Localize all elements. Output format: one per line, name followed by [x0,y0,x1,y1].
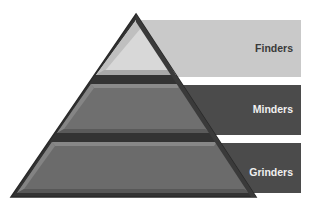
pyramid-diagram: Finders Minders Grinders [0,0,315,211]
tier-minders-bevel-bottom [57,129,211,133]
label-grinders: Grinders [249,166,293,178]
tier-grinders-bevel-top [52,142,217,146]
label-finders: Finders [255,42,293,54]
tier-minders-bevel-top [91,84,181,88]
label-minders: Minders [253,103,293,115]
tier-finders-bevel-bottom [96,70,176,75]
tier-grinders-bevel-bottom [17,189,250,193]
